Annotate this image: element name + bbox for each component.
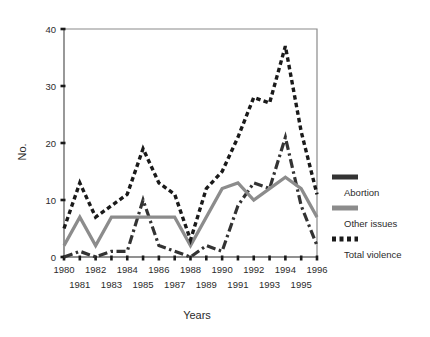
x-tick-label-upper-5: 1990 bbox=[212, 264, 233, 275]
x-tick-label-upper-2: 1984 bbox=[117, 264, 138, 275]
chart-container: 0102030401980198219841986198819901992199… bbox=[0, 0, 430, 337]
x-tick-label-upper-4: 1988 bbox=[180, 264, 201, 275]
line-chart: 0102030401980198219841986198819901992199… bbox=[0, 0, 430, 337]
x-tick-label-lower-1: 1983 bbox=[101, 279, 122, 290]
x-tick-label-lower-6: 1993 bbox=[259, 279, 280, 290]
x-tick-label-lower-2: 1985 bbox=[132, 279, 153, 290]
x-tick-label-upper-7: 1994 bbox=[275, 264, 296, 275]
legend-label-other-issues: Other issues bbox=[344, 218, 398, 229]
series-line-total-violence bbox=[64, 46, 317, 240]
legend-label-abortion: Abortion bbox=[344, 187, 379, 198]
x-tick-label-lower-5: 1991 bbox=[227, 279, 248, 290]
y-tick-label-4: 40 bbox=[45, 24, 56, 35]
x-tick-label-lower-7: 1995 bbox=[291, 279, 312, 290]
x-tick-label-upper-6: 1992 bbox=[243, 264, 264, 275]
x-tick-label-lower-3: 1987 bbox=[164, 279, 185, 290]
x-tick-label-upper-3: 1986 bbox=[148, 264, 169, 275]
x-axis-title: Years bbox=[183, 309, 211, 321]
y-tick-label-1: 10 bbox=[45, 195, 56, 206]
x-tick-label-lower-4: 1989 bbox=[196, 279, 217, 290]
x-tick-label-lower-0: 1981 bbox=[69, 279, 90, 290]
y-tick-label-3: 30 bbox=[45, 81, 56, 92]
y-axis-title: No. bbox=[16, 143, 28, 160]
x-tick-label-upper-1: 1982 bbox=[85, 264, 106, 275]
x-tick-label-upper-8: 1996 bbox=[306, 264, 327, 275]
y-tick-label-0: 0 bbox=[51, 252, 56, 263]
x-tick-label-upper-0: 1980 bbox=[53, 264, 74, 275]
legend-label-total-violence: Total violence bbox=[344, 249, 402, 260]
y-tick-label-2: 20 bbox=[45, 138, 56, 149]
